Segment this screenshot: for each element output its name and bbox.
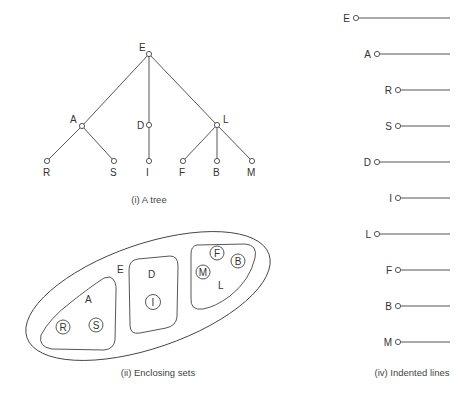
set-E-label: E <box>117 264 124 275</box>
tree-node-label-R: R <box>43 167 50 178</box>
tree-edge-E-L <box>149 54 217 125</box>
tree-node-label-B: B <box>213 167 220 178</box>
indented-rows: EARSDILFBM <box>343 13 450 348</box>
diagram-canvas: EADLRSIFBM (i) A tree E A R S D I L M F … <box>0 0 473 403</box>
indented-row-label-L: L <box>365 229 371 240</box>
tree-node-B <box>214 158 219 163</box>
set-D-label: D <box>148 269 155 280</box>
indented-row-node-M <box>395 339 400 344</box>
indented-row-node-I <box>395 195 400 200</box>
indented-row-node-E <box>353 15 358 20</box>
indented-row-label-S: S <box>385 121 392 132</box>
indented-row-node-B <box>395 303 400 308</box>
set-B-label: B <box>235 256 242 267</box>
indented-row-node-L <box>374 231 379 236</box>
tree-node-label-I: I <box>146 167 149 178</box>
tree-node-D <box>146 122 151 127</box>
indented-row-label-M: M <box>384 337 392 348</box>
indented-row-node-A <box>374 51 379 56</box>
tree-edges <box>47 54 252 161</box>
tree-diagram: EADLRSIFBM (i) A tree <box>43 42 255 205</box>
tree-caption: (i) A tree <box>131 194 166 205</box>
tree-node-R <box>44 158 49 163</box>
tree-node-label-D: D <box>137 120 144 131</box>
indented-row-label-E: E <box>343 13 350 24</box>
set-A-label: A <box>85 294 92 305</box>
indented-caption: (iv) Indented lines <box>375 367 450 378</box>
set-F-label: F <box>214 248 220 259</box>
indented-row-label-F: F <box>386 265 392 276</box>
tree-edge-A-R <box>47 126 82 161</box>
indented-row-node-F <box>395 267 400 272</box>
indented-row-node-R <box>395 87 400 92</box>
indented-row-label-A: A <box>364 49 371 60</box>
set-I-label: I <box>152 297 155 308</box>
indented-row-label-B: B <box>385 301 392 312</box>
indented-row-label-R: R <box>385 85 392 96</box>
tree-node-A <box>79 123 84 128</box>
tree-node-label-F: F <box>179 167 185 178</box>
tree-edge-A-S <box>82 126 114 161</box>
tree-edge-L-F <box>183 125 217 161</box>
set-L-label: L <box>218 280 224 291</box>
tree-node-I <box>146 158 151 163</box>
sets-caption: (ii) Enclosing sets <box>121 367 196 378</box>
set-R-label: R <box>59 322 66 333</box>
tree-node-label-L: L <box>223 114 229 125</box>
tree-node-E <box>146 51 151 56</box>
set-M-label: M <box>199 267 207 278</box>
indented-row-label-D: D <box>364 157 371 168</box>
tree-node-F <box>180 158 185 163</box>
tree-node-label-S: S <box>110 167 117 178</box>
indented-row-label-I: I <box>389 193 392 204</box>
tree-node-M <box>249 158 254 163</box>
tree-node-S <box>111 158 116 163</box>
tree-node-L <box>214 122 219 127</box>
tree-edge-E-A <box>82 54 149 126</box>
enclosing-sets-diagram: E A R S D I L M F B (ii) Enclosing sets <box>10 205 286 387</box>
tree-edge-L-M <box>217 125 252 161</box>
tree-node-label-A: A <box>70 114 77 125</box>
indented-lines-diagram: EARSDILFBM (iv) Indented lines <box>343 13 450 379</box>
tree-node-label-E: E <box>139 42 146 53</box>
set-A-outline <box>40 277 116 350</box>
indented-row-node-S <box>395 123 400 128</box>
set-S-label: S <box>93 320 100 331</box>
tree-node-label-M: M <box>247 167 255 178</box>
indented-row-node-D <box>374 159 379 164</box>
